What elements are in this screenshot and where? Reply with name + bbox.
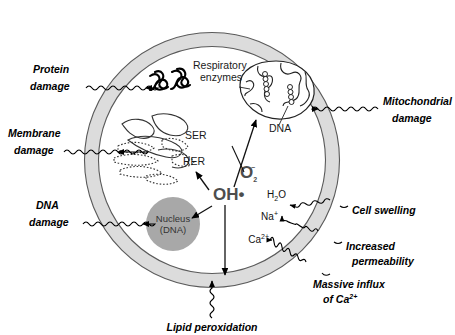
membrane-damage-label-line1: Membrane <box>8 127 61 139</box>
respiratory-enzymes-label-line2: enzymes <box>200 71 242 83</box>
cell-swelling-leader <box>340 206 348 208</box>
massive-influx-label-line2: of Ca2+ <box>323 293 357 305</box>
ser-label: SER <box>185 129 207 141</box>
dna-damage-label-line1: DNA <box>36 199 59 211</box>
nucleus-label-line1: Nucleus <box>156 213 191 224</box>
lipid-peroxidation-label: Lipid peroxidation <box>167 321 258 333</box>
increased-permeability-label-line1: Increased <box>346 240 396 252</box>
mitochondrial-damage-label-line2: damage <box>392 112 432 124</box>
cell-injury-figure: Respiratory enzymes DNA SER RER Nucleus … <box>0 0 455 335</box>
rer-label: RER <box>183 155 206 167</box>
massive-influx-label-line1: Massive influx <box>313 278 386 290</box>
massive-influx-leader <box>322 273 330 275</box>
nucleus-label-line2: (DNA) <box>160 224 186 235</box>
respiratory-enzymes-label-line1: Respiratory <box>193 59 247 71</box>
increased-permeability-leader <box>334 242 342 244</box>
dna-damage-label-line2: damage <box>29 216 69 228</box>
mitochondrial-dna-label: DNA <box>269 122 291 134</box>
increased-permeability-label-line2: permeability <box>351 255 415 267</box>
superoxide-sub: 2 <box>253 176 257 183</box>
cell-swelling-label: Cell swelling <box>352 204 416 216</box>
protein-damage-label-line2: damage <box>30 80 70 92</box>
mitochondrial-damage-label-line1: Mitochondrial <box>383 95 453 107</box>
superoxide-sup: – <box>251 163 255 170</box>
membrane-damage-label-line2: damage <box>14 144 54 156</box>
hydroxyl-radical-label: OH• <box>213 185 245 204</box>
protein-damage-label-line1: Protein <box>33 63 69 75</box>
